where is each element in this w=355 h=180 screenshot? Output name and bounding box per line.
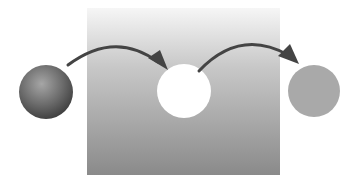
source-sphere	[19, 65, 73, 119]
diagram-canvas	[0, 0, 355, 180]
arrowhead-icon	[278, 44, 299, 64]
hole	[157, 64, 211, 118]
result-circle	[288, 65, 340, 117]
